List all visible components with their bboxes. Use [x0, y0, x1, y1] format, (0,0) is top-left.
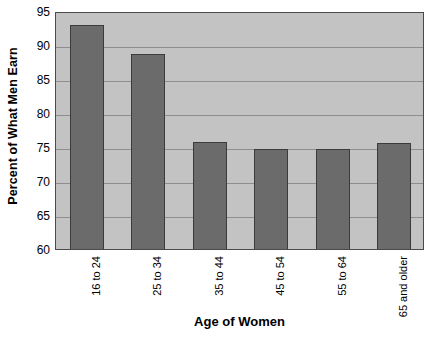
plot-area	[55, 12, 424, 250]
y-tick-label: 80	[37, 108, 50, 120]
y-tick-label: 90	[37, 40, 50, 52]
x-tick-label: 55 to 64	[337, 256, 348, 296]
y-tick-label: 95	[37, 6, 50, 18]
y-tick-label: 70	[37, 176, 50, 188]
y-tick-label: 65	[37, 210, 50, 222]
x-tick-label: 45 to 54	[275, 256, 286, 296]
bar	[131, 54, 165, 249]
bar	[254, 149, 288, 249]
bar	[70, 25, 104, 249]
x-axis-tick-labels: 16 to 2425 to 3435 to 4445 to 5455 to 64…	[55, 252, 424, 314]
x-tick-label: 35 to 44	[214, 256, 225, 296]
y-axis-title-text: Percent of What Men Earn	[6, 47, 20, 204]
x-tick-label: 25 to 34	[152, 256, 163, 296]
bar	[316, 149, 350, 249]
y-tick-label: 60	[37, 244, 50, 256]
y-tick-label: 85	[37, 74, 50, 86]
bars-layer	[56, 13, 423, 249]
bar	[377, 143, 411, 249]
bar	[193, 142, 227, 249]
bar-chart: Percent of What Men Earn 606570758085909…	[0, 0, 430, 340]
y-axis-tick-labels: 6065707580859095	[26, 12, 53, 250]
y-tick-label: 75	[37, 142, 50, 154]
canvas-edge-sliver	[424, 0, 430, 4]
x-tick-label: 65 and older	[398, 256, 409, 317]
x-tick-label: 16 to 24	[91, 256, 102, 296]
x-axis-title: Age of Women	[55, 314, 424, 329]
y-axis-title: Percent of What Men Earn	[0, 0, 26, 252]
